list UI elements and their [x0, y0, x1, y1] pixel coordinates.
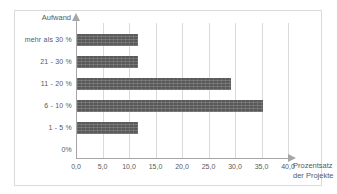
y-axis-label: Aufwand: [23, 13, 71, 22]
gridline: [288, 23, 289, 158]
chart-container: Aufwand mehr als 30 %21 - 30 %11 - 20 %6…: [14, 10, 322, 186]
bar: [77, 100, 263, 112]
x-axis-tick-label: 15,0: [141, 163, 171, 170]
x-axis-tick-label: 35,0: [247, 163, 277, 170]
y-axis-tick-label: mehr als 30 %: [15, 36, 72, 43]
x-axis-tick-label: 10,0: [114, 163, 144, 170]
bar: [77, 34, 138, 46]
y-axis-tick-label: 11 - 20 %: [15, 80, 72, 87]
y-axis-tick-label: 0%: [15, 146, 72, 153]
bar: [77, 56, 138, 68]
bar: [77, 122, 138, 134]
x-axis-tick-label: 25,0: [194, 163, 224, 170]
gridline: [262, 23, 263, 158]
x-axis-label: Prozentsatz der Projekte: [293, 161, 337, 181]
gridline: [209, 23, 210, 158]
y-axis-tick-label: 1 - 5 %: [15, 124, 72, 131]
y-axis-tick-label: 6 - 10 %: [15, 102, 72, 109]
x-axis-label-line-2: der Projekte: [293, 171, 337, 181]
plot-area: Aufwand mehr als 30 %21 - 30 %11 - 20 %6…: [15, 11, 321, 185]
gridline: [156, 23, 157, 158]
x-axis-line: [76, 158, 288, 159]
gridline: [235, 23, 236, 158]
x-axis-tick-label: 0,0: [61, 163, 91, 170]
y-axis-tick-label: 21 - 30 %: [15, 58, 72, 65]
x-axis-tick-label: 20,0: [167, 163, 197, 170]
x-axis-tick-label: 30,0: [220, 163, 250, 170]
x-axis-label-line-1: Prozentsatz: [293, 161, 337, 171]
bar: [77, 78, 231, 90]
x-axis-tick-label: 5,0: [88, 163, 118, 170]
gridline: [182, 23, 183, 158]
